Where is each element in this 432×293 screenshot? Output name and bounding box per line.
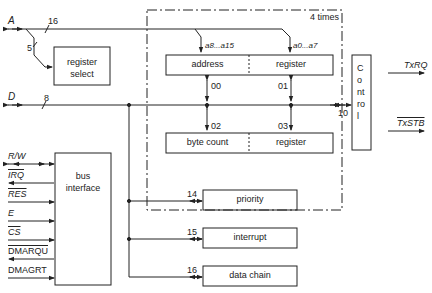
offset-03: 03 [278,122,288,131]
pin-dmagrt: DMAGRT [8,266,47,275]
txstb-signal: TxSTB [397,119,425,128]
interrupt-block: interrupt [203,233,297,242]
address-block: address [166,60,249,69]
address-bits-high: a8...a15 [205,42,234,50]
address-bus-label: A [8,16,15,26]
offset-14: 14 [187,190,197,199]
byte-count-block: byte count [166,138,249,147]
offset-10: 10 [338,109,348,118]
offset-15: 15 [187,228,197,237]
address-bits-low: a0...a7 [293,42,317,50]
pin-e: E [8,209,14,218]
pin-rw: R/W [8,152,26,161]
count-register-block: register [249,138,333,147]
data-chain-block: data chain [203,271,297,280]
txrq-signal: TxRQ [404,61,428,70]
bus-interface-line2: interface [55,184,111,193]
bus-interface-line1: bus [55,172,111,181]
control-block: Control [357,62,366,122]
channel-group-label: 4 times [310,13,339,22]
priority-block: priority [203,195,297,204]
offset-00: 00 [211,82,221,91]
pin-dmarqu: DMARQU [8,247,48,256]
offset-16: 16 [187,266,197,275]
select-width-label: 5 [27,44,32,53]
address-width-label: 16 [48,17,58,26]
data-width-label: 8 [44,94,49,103]
register-select-line1: register [54,58,110,67]
register-select-line2: select [54,70,110,79]
pin-cs: CS [8,228,21,237]
pin-irq: IRQ [8,171,24,180]
offset-02: 02 [211,122,221,131]
dma-controller-block-diagram: A 16 5 register select D 8 4 times a8...… [0,0,432,293]
offset-01: 01 [278,82,288,91]
data-bus-label: D [8,92,15,102]
pin-res: RES [8,190,27,199]
address-register-block: register [249,60,333,69]
